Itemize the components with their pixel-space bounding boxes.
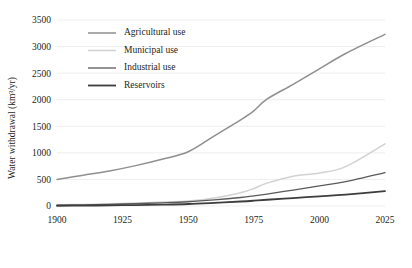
chart-background	[0, 0, 412, 268]
x-tick-1975: 1975	[244, 215, 263, 225]
x-tick-1925: 1925	[113, 215, 132, 225]
legend-label-agricultural-use: Agricultural use	[124, 27, 185, 37]
y-tick-500: 500	[37, 175, 52, 185]
y-axis-title: Water withdrawal (km³/yr)	[7, 77, 18, 179]
x-tick-2000: 2000	[310, 215, 329, 225]
y-tick-3500: 3500	[32, 15, 51, 25]
y-tick-2500: 2500	[32, 69, 51, 79]
chart-canvas: 0500100015002000250030003500 19001925195…	[0, 0, 412, 268]
legend-label-industrial-use: Industrial use	[124, 62, 175, 72]
water-withdrawal-line-chart: 0500100015002000250030003500 19001925195…	[0, 0, 412, 268]
legend-label-reservoirs: Reservoirs	[124, 80, 165, 90]
x-tick-1950: 1950	[179, 215, 198, 225]
legend-label-municipal-use: Municipal use	[124, 45, 178, 55]
y-tick-1500: 1500	[32, 122, 51, 132]
y-tick-0: 0	[46, 201, 51, 211]
y-tick-1000: 1000	[32, 148, 51, 158]
y-tick-2000: 2000	[32, 95, 51, 105]
x-tick-1900: 1900	[48, 215, 67, 225]
y-tick-3000: 3000	[32, 42, 51, 52]
x-tick-2025: 2025	[376, 215, 395, 225]
